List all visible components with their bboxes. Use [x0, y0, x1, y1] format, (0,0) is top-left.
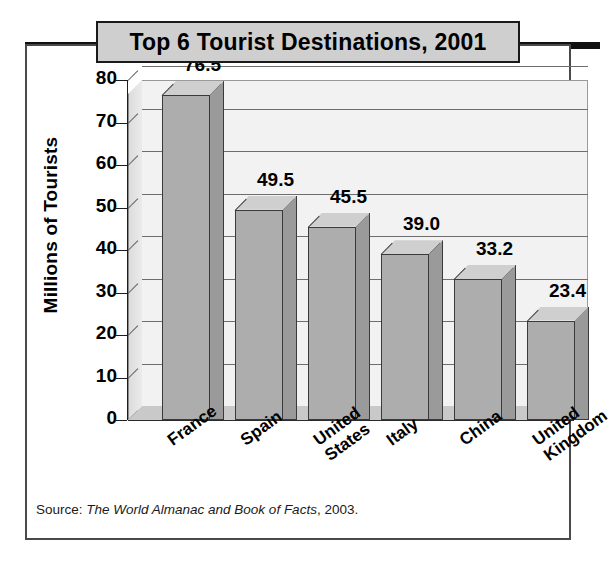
bar: [454, 265, 516, 420]
y-axis-tick-label: 0: [53, 407, 117, 429]
bar-front-face: [381, 254, 429, 420]
y-axis-tick: [116, 420, 127, 421]
y-axis-tick: [116, 123, 127, 124]
source-prefix: Source:: [36, 502, 86, 517]
y-axis-tick: [116, 250, 127, 251]
y-axis-title: Millions of Tourists: [40, 95, 62, 355]
bar-front-face: [454, 279, 502, 420]
bar-value-label: 49.5: [257, 169, 294, 191]
bar-side-face: [429, 240, 443, 420]
y-axis-tick-label: 10: [53, 365, 117, 387]
plot-left-wall: [128, 80, 143, 420]
source-suffix: , 2003.: [317, 502, 358, 517]
y-axis-tick: [116, 80, 127, 81]
bar-side-face: [502, 265, 516, 420]
y-axis-tick-label: 50: [53, 195, 117, 217]
y-axis-tick: [116, 165, 127, 166]
y-axis-tick: [116, 378, 127, 379]
y-axis-tick: [116, 293, 127, 294]
chart-plot-area: 01020304050607080 Millions of Tourists 7…: [25, 44, 571, 540]
bar: [235, 196, 297, 420]
bar-value-label: 45.5: [330, 186, 367, 208]
bar-front-face: [235, 210, 283, 420]
y-axis-tick-label: 60: [53, 152, 117, 174]
source-note: Source: The World Almanac and Book of Fa…: [36, 502, 358, 517]
bar-side-face: [210, 81, 224, 420]
bar: [381, 240, 443, 420]
bar-value-label: 33.2: [476, 238, 513, 260]
bar-value-label: 23.4: [549, 280, 586, 302]
page-title: Top 6 Tourist Destinations, 2001: [129, 29, 486, 56]
y-axis-tick-label: 80: [53, 67, 117, 89]
bar: [162, 81, 224, 420]
source-publication: The World Almanac and Book of Facts: [86, 502, 317, 517]
y-axis-tick-label: 70: [53, 110, 117, 132]
bar-side-face: [356, 213, 370, 420]
y-axis-tick: [116, 335, 127, 336]
bar-value-label: 39.0: [403, 213, 440, 235]
bar-side-face: [283, 196, 297, 420]
y-axis-line: [127, 80, 128, 420]
y-axis-tick-label: 20: [53, 322, 117, 344]
chart-title-banner: Top 6 Tourist Destinations, 2001: [96, 21, 520, 63]
bar-front-face: [162, 95, 210, 420]
bar: [308, 213, 370, 420]
bar-front-face: [308, 227, 356, 420]
y-axis-tick-label: 30: [53, 280, 117, 302]
y-axis-tick-label: 40: [53, 237, 117, 259]
y-axis-tick: [116, 208, 127, 209]
